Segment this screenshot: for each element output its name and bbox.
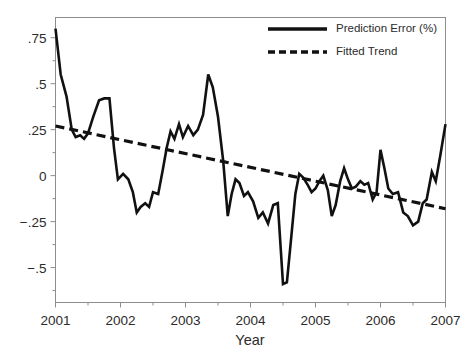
x-tick-label: 2005 bbox=[300, 313, 330, 328]
x-tick-label: 2007 bbox=[430, 313, 460, 328]
y-tick-label: .5 bbox=[35, 77, 46, 92]
x-tick-label: 2004 bbox=[235, 313, 266, 328]
x-axis-title: Year bbox=[235, 332, 264, 348]
x-tick-label: 2002 bbox=[105, 313, 135, 328]
y-tick-label: .75 bbox=[28, 31, 47, 46]
line-chart: .75.5.250−.25−.5 20012002200320042005200… bbox=[0, 0, 471, 353]
y-tick-label: .25 bbox=[28, 123, 47, 138]
y-tick-label: −.25 bbox=[20, 215, 47, 230]
y-tick-label: −.5 bbox=[27, 261, 46, 276]
x-tick-label: 2003 bbox=[170, 313, 200, 328]
x-tick-label: 2006 bbox=[365, 313, 395, 328]
chart-background bbox=[0, 0, 471, 353]
x-tick-label: 2001 bbox=[40, 313, 70, 328]
chart-figure: .75.5.250−.25−.5 20012002200320042005200… bbox=[0, 0, 471, 353]
y-tick-label: 0 bbox=[39, 169, 47, 184]
legend-label-fitted-trend: Fitted Trend bbox=[336, 45, 397, 57]
legend-label-prediction-error: Prediction Error (%) bbox=[336, 22, 437, 34]
